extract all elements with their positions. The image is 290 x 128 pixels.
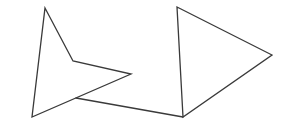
right-triangle-shape bbox=[177, 7, 272, 117]
left-arrowhead-shape bbox=[32, 8, 131, 117]
line-drawing-canvas bbox=[0, 0, 290, 128]
connector-line bbox=[76, 98, 183, 117]
